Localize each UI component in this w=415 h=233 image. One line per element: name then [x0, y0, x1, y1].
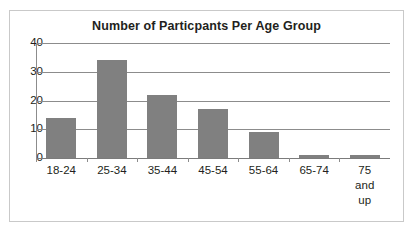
x-label-35-44: 35-44 [137, 163, 188, 178]
bar-45-54[interactable] [198, 109, 228, 158]
chart-frame: Number of Particpants Per Age Group 0102… [9, 10, 404, 222]
plot-area [36, 43, 390, 158]
x-label-line: up [339, 193, 390, 208]
bar-35-44[interactable] [147, 95, 177, 158]
x-label-45-54: 45-54 [188, 163, 239, 178]
x-tick-mark [87, 158, 88, 162]
x-label-line: and [339, 178, 390, 193]
x-label-18-24: 18-24 [36, 163, 87, 178]
x-label-line: 45-54 [188, 163, 239, 178]
x-tick-mark [137, 158, 138, 162]
bar-18-24[interactable] [46, 118, 76, 158]
bar-slot [36, 43, 87, 158]
x-label-line: 18-24 [36, 163, 87, 178]
x-label-75-and-up: 75andup [339, 163, 390, 208]
x-tick-mark [238, 158, 239, 162]
x-tick-mark [339, 158, 340, 162]
x-label-25-34: 25-34 [87, 163, 138, 178]
x-label-line: 35-44 [137, 163, 188, 178]
x-label-65-74: 65-74 [289, 163, 340, 178]
bar-slot [137, 43, 188, 158]
chart-title: Number of Particpants Per Age Group [10, 19, 403, 33]
bar-slot [289, 43, 340, 158]
x-label-line: 25-34 [87, 163, 138, 178]
x-tick-mark [188, 158, 189, 162]
x-label-line: 65-74 [289, 163, 340, 178]
bar-slot [238, 43, 289, 158]
bar-25-34[interactable] [97, 60, 127, 158]
x-label-line: 75 [339, 163, 390, 178]
bar-slot [339, 43, 390, 158]
gridline-0 [36, 158, 390, 159]
bar-slot [87, 43, 138, 158]
bar-slot [188, 43, 239, 158]
bar-55-64[interactable] [249, 132, 279, 158]
x-axis-category-labels: 18-2425-3435-4445-5455-6465-7475andup [36, 163, 390, 223]
x-label-line: 55-64 [238, 163, 289, 178]
bar-75-and-up[interactable] [350, 155, 380, 158]
bar-65-74[interactable] [299, 155, 329, 158]
x-tick-mark [289, 158, 290, 162]
x-tick-mark-origin [36, 158, 37, 162]
x-label-55-64: 55-64 [238, 163, 289, 178]
